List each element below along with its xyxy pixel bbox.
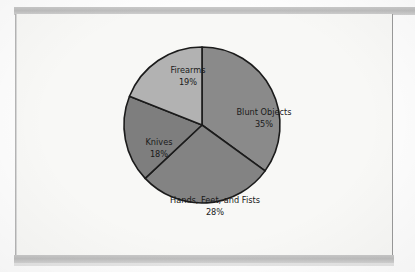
pie-slice-label: Knives	[146, 137, 173, 147]
scanned-figure-page: Blunt Objects35%Hands, Feet, and Fists28…	[0, 0, 415, 272]
pie-chart-svg: Blunt Objects35%Hands, Feet, and Fists28…	[15, 14, 393, 256]
pie-slice-value: 28%	[206, 207, 224, 217]
pie-slice-value: 19%	[179, 77, 197, 87]
scan-bar-bottom	[14, 255, 394, 263]
pie-slice-value: 18%	[150, 149, 168, 159]
pie-chart: Blunt Objects35%Hands, Feet, and Fists28…	[15, 14, 393, 256]
pie-slice-label: Firearms	[170, 65, 205, 75]
pie-slice-label: Hands, Feet, and Fists	[170, 195, 260, 205]
pie-slice-label: Blunt Objects	[236, 107, 291, 117]
pie-slice-value: 35%	[255, 119, 273, 129]
scan-bar-bottom-shadow	[14, 263, 394, 266]
